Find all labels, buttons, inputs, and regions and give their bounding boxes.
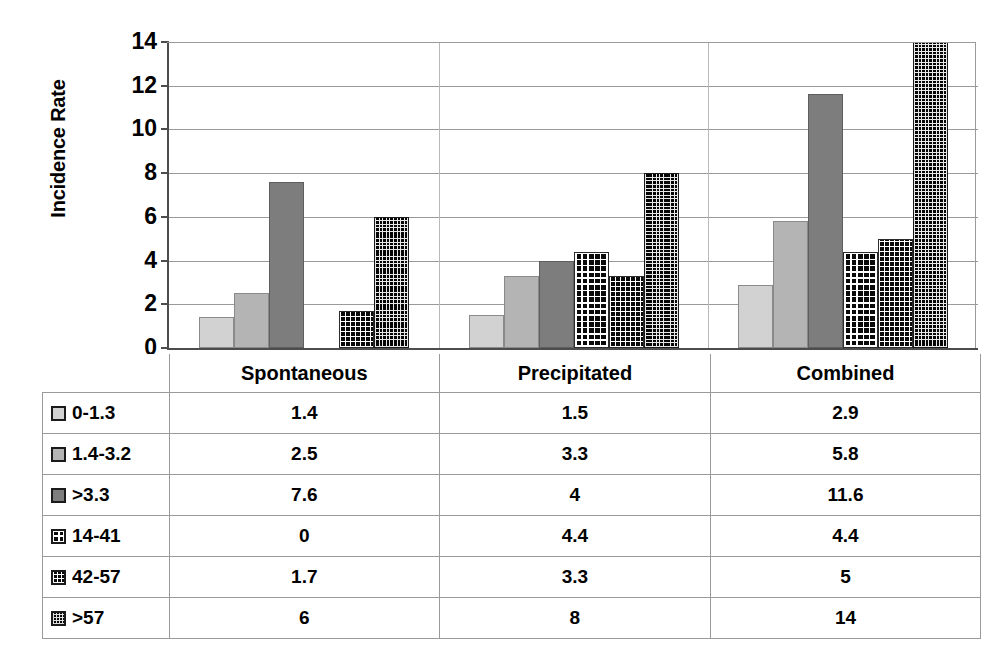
legend-label: 42-57 [72, 566, 121, 587]
legend-swatch-icon [51, 529, 66, 544]
y-axis-tick-mark [161, 216, 169, 218]
bar [469, 315, 504, 348]
y-axis-tick-label: 10 [97, 117, 157, 140]
table-row: >3.37.6411.6 [43, 475, 981, 516]
group-separator [708, 42, 709, 348]
bar [913, 42, 948, 348]
table-cell-value: 7.6 [169, 475, 440, 516]
bar [339, 311, 374, 348]
group-separator [439, 42, 440, 348]
table-cell-value: 1.4 [169, 393, 440, 434]
bar [234, 293, 269, 348]
bar [644, 173, 679, 348]
legend-entry: 0-1.3 [43, 393, 170, 434]
legend-entry: >57 [43, 598, 170, 639]
legend-label: 14-41 [72, 525, 121, 546]
bar [574, 252, 609, 348]
legend-swatch-icon [51, 406, 66, 421]
gridline [169, 86, 978, 87]
bar [843, 252, 878, 348]
table-header-blank [43, 354, 170, 393]
gridline [169, 129, 978, 130]
legend-entry: 1.4-3.2 [43, 434, 170, 475]
table-row: 1.4-3.22.53.35.8 [43, 434, 981, 475]
y-axis-tick-label: 2 [97, 292, 157, 315]
legend-swatch-icon [51, 611, 66, 626]
y-axis-title: Incidence Rate [47, 49, 70, 249]
y-axis-tick-label: 6 [97, 205, 157, 228]
legend-label: >3.3 [72, 484, 110, 505]
table-cell-value: 4 [440, 475, 711, 516]
y-axis-tick-mark [161, 85, 169, 87]
table-cell-value: 3.3 [440, 434, 711, 475]
plot-area [167, 42, 978, 350]
legend-label: >57 [72, 607, 104, 628]
y-axis-tick-mark [161, 260, 169, 262]
table-header-row: Spontaneous Precipitated Combined [43, 354, 981, 393]
table-cell-value: 1.7 [169, 557, 440, 598]
table-cell-value: 4.4 [440, 516, 711, 557]
bar [878, 239, 913, 348]
legend-swatch-icon [51, 488, 66, 503]
y-axis-tick-label: 14 [97, 30, 157, 53]
bar [773, 221, 808, 348]
table-row: 14-4104.44.4 [43, 516, 981, 557]
y-axis-tick-mark [161, 172, 169, 174]
data-table: Spontaneous Precipitated Combined 0-1.31… [42, 354, 981, 639]
legend-swatch-icon [51, 570, 66, 585]
bar [374, 217, 409, 348]
table-row: >576814 [43, 598, 981, 639]
bar [504, 276, 539, 348]
table-header-precipitated: Precipitated [440, 354, 711, 393]
legend-swatch-icon [51, 447, 66, 462]
y-axis-tick-label: 4 [97, 249, 157, 272]
legend-entry: 14-41 [43, 516, 170, 557]
y-axis-tick-label: 12 [97, 74, 157, 97]
table-header-combined: Combined [710, 354, 981, 393]
y-axis-tick-mark [161, 347, 169, 349]
table-body: 0-1.31.41.52.91.4-3.22.53.35.8>3.37.6411… [43, 393, 981, 639]
bar [269, 182, 304, 348]
bar [738, 285, 773, 348]
table-cell-value: 1.5 [440, 393, 711, 434]
bar [808, 94, 843, 348]
table-cell-value: 6 [169, 598, 440, 639]
legend-label: 0-1.3 [72, 402, 115, 423]
table-cell-value: 4.4 [710, 516, 981, 557]
table-row: 42-571.73.35 [43, 557, 981, 598]
table-cell-value: 14 [710, 598, 981, 639]
bar [609, 276, 644, 348]
y-axis-tick-mark [161, 41, 169, 43]
bar [539, 261, 574, 348]
gridline [169, 173, 978, 174]
chart-figure: Incidence Rate 14121086420 Spontaneous P… [0, 0, 993, 645]
y-axis-tick-labels: 14121086420 [85, 0, 157, 360]
table-cell-value: 2.5 [169, 434, 440, 475]
table-cell-value: 8 [440, 598, 711, 639]
y-axis-tick-mark [161, 128, 169, 130]
y-axis-tick-mark [161, 303, 169, 305]
table-header-spontaneous: Spontaneous [169, 354, 440, 393]
legend-entry: 42-57 [43, 557, 170, 598]
table-cell-value: 11.6 [710, 475, 981, 516]
legend-label: 1.4-3.2 [72, 443, 131, 464]
table-row: 0-1.31.41.52.9 [43, 393, 981, 434]
table-cell-value: 5.8 [710, 434, 981, 475]
table-cell-value: 2.9 [710, 393, 981, 434]
table-cell-value: 3.3 [440, 557, 711, 598]
table-cell-value: 0 [169, 516, 440, 557]
legend-entry: >3.3 [43, 475, 170, 516]
y-axis-tick-label: 8 [97, 161, 157, 184]
bar [199, 317, 234, 348]
table-cell-value: 5 [710, 557, 981, 598]
